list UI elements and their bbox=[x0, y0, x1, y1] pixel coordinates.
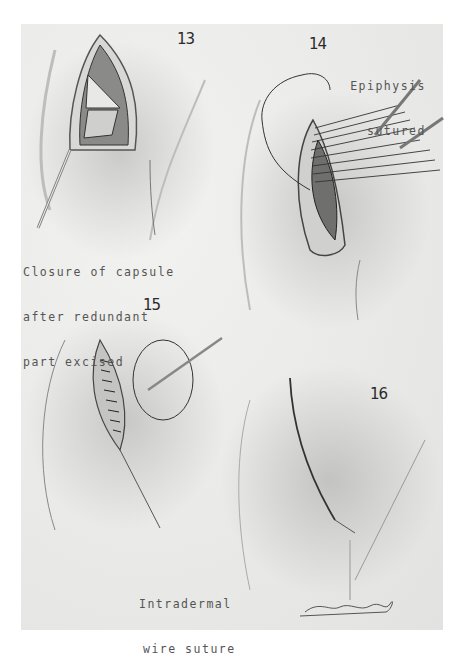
caption-line: part excised bbox=[23, 355, 175, 370]
panel-16-number: 16 bbox=[370, 385, 387, 403]
signature-mark bbox=[300, 602, 393, 616]
caption-line: wire suture bbox=[139, 642, 236, 657]
panel-14-number: 14 bbox=[309, 35, 326, 53]
caption-line: sutured bbox=[349, 124, 426, 139]
caption-line: Intradermal bbox=[139, 597, 236, 612]
panel-13-caption: Closure of capsule after redundant part … bbox=[23, 235, 175, 385]
caption-line: Closure of capsule bbox=[23, 265, 175, 280]
panel-13-drawing bbox=[25, 35, 215, 260]
panel-16-drawing bbox=[220, 365, 440, 600]
caption-line: after redundant bbox=[23, 310, 175, 325]
caption-line: Epiphysis bbox=[349, 79, 426, 94]
panel-14-caption: Epiphysis sutured bbox=[349, 49, 426, 154]
panel-15-caption: Intradermal wire suture bbox=[139, 567, 236, 657]
panel-13-number: 13 bbox=[177, 30, 194, 48]
